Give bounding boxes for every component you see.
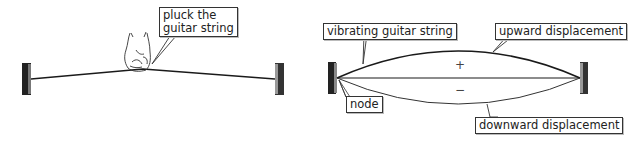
- plus-sign: +: [455, 59, 465, 71]
- pluck-pointer: [152, 36, 176, 64]
- left-anchor: [22, 63, 31, 95]
- upward-displacement-label: upward displacement: [495, 23, 627, 40]
- downward-displacement-label: downward displacement: [475, 117, 623, 134]
- pluck-label-line2: guitar string: [163, 22, 234, 35]
- downward-pointer: [487, 104, 498, 117]
- vibrating-string-label: vibrating guitar string: [323, 23, 457, 40]
- minus-sign: −: [455, 84, 465, 96]
- node-label: node: [346, 96, 383, 113]
- hand-icon: [125, 32, 151, 71]
- plucked-string: [31, 69, 275, 79]
- pluck-label: pluck the guitar string: [159, 7, 238, 37]
- right-anchor: [275, 63, 284, 95]
- right-panel-left-anchor: [328, 62, 337, 94]
- right-panel-right-anchor: [580, 62, 588, 94]
- standing-wave-diagram: pluck the guitar string vibrating guitar…: [0, 0, 628, 147]
